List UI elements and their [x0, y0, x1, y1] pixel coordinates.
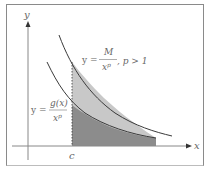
lower-formula-numerator: g(x) [50, 98, 68, 108]
x-axis-arrow-icon [186, 144, 192, 149]
lower-formula-prefix: y = [30, 105, 47, 115]
y-axis-arrow-icon [26, 21, 31, 27]
upper-formula-prefix: y = [81, 55, 98, 65]
x-axis-label: x [194, 140, 200, 151]
upper-formula-numerator: M [103, 47, 114, 57]
c-label: c [69, 150, 75, 161]
y-axis-label: y [23, 9, 30, 20]
upper-formula-denominator: xp [102, 61, 111, 72]
lower-formula-denominator: xp [53, 112, 62, 123]
upper-formula-condition: , p > 1 [117, 56, 147, 66]
comparison-diagram: y x c y = M xp , p > 1 y = g(x) xp [0, 0, 208, 169]
